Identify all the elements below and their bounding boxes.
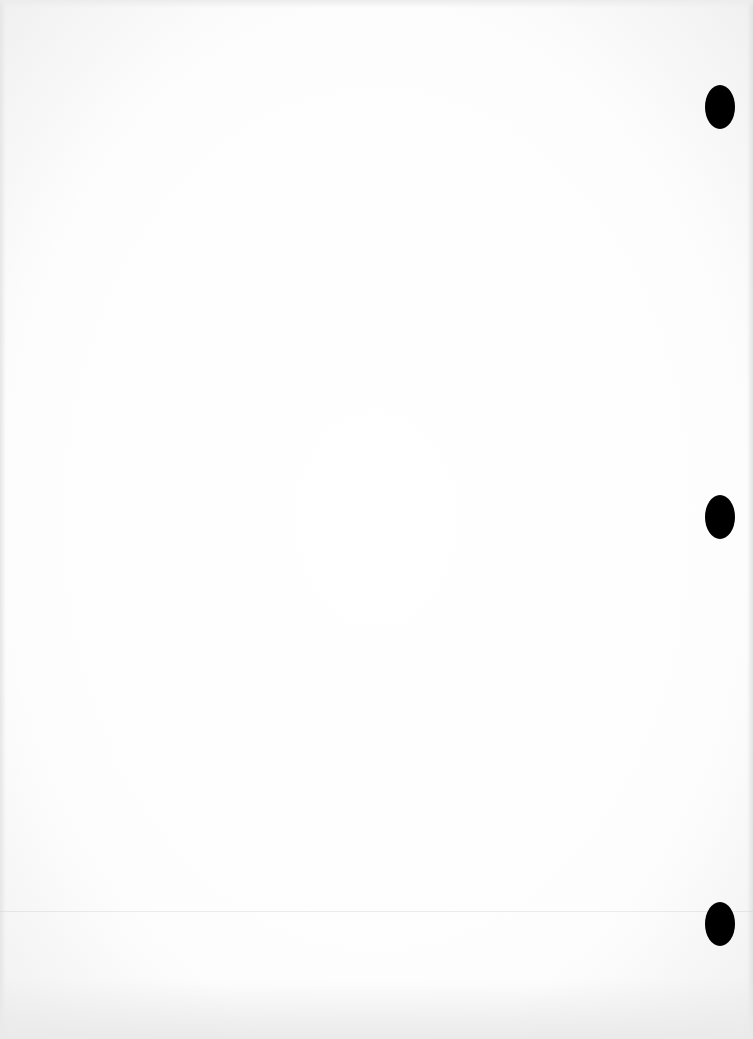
punch-hole-bottom <box>705 902 735 946</box>
punch-hole-middle <box>705 495 735 539</box>
page-edge-top <box>0 0 753 8</box>
page-edge-right <box>747 0 753 1039</box>
page-edge-left <box>0 0 6 1039</box>
faint-fold-line <box>0 911 753 912</box>
page-edge-bottom <box>0 979 753 1039</box>
blank-page <box>0 0 753 1039</box>
punch-hole-top <box>705 85 735 129</box>
